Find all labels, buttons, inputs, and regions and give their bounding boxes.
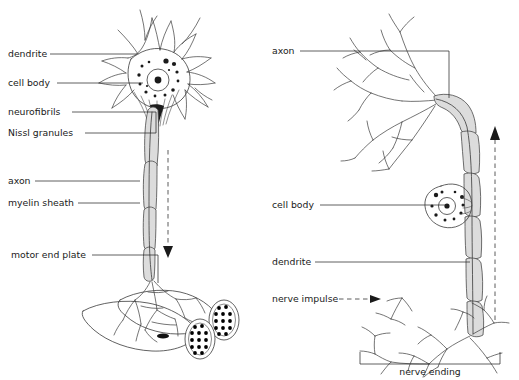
label-dendrite-right: dendrite (272, 256, 311, 267)
label-nerve-ending: nerve ending (399, 366, 461, 377)
label-myelin-sheath: myelin sheath (8, 197, 74, 208)
label-nerve-impulse: nerve impulse (272, 293, 338, 304)
background (0, 0, 519, 380)
muscle-nucleus (157, 334, 169, 339)
label-neurofibrils: neurofibrils (8, 106, 61, 117)
diagram-canvas: dendrite cell body neurofibrils Nissl gr… (0, 0, 519, 380)
label-axon-right: axon (272, 45, 295, 56)
label-motor-end-plate: motor end plate (11, 249, 86, 260)
nucleolus-right (444, 203, 449, 208)
label-nissl-granules: Nissl granules (8, 127, 73, 138)
label-dendrite-left: dendrite (8, 48, 47, 59)
label-axon-left: axon (8, 175, 31, 186)
neuron-diagram-svg: dendrite cell body neurofibrils Nissl gr… (0, 0, 519, 380)
label-cell-body-left: cell body (8, 77, 50, 88)
label-cell-body-right: cell body (272, 199, 314, 210)
nucleolus-left (155, 77, 162, 84)
